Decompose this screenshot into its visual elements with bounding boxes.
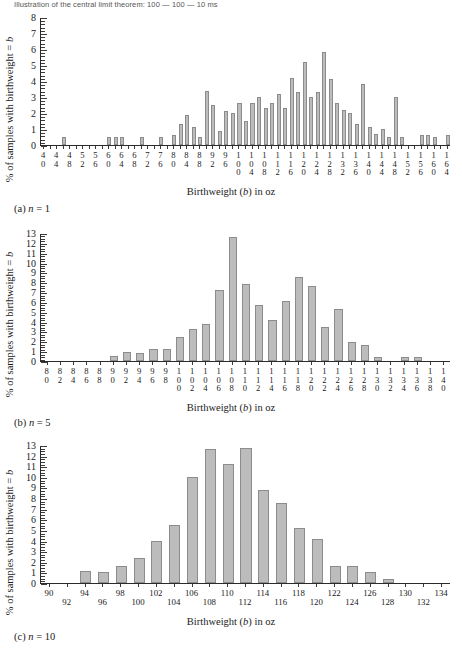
axes-c [40,446,450,584]
x-tick-mark [343,146,344,149]
y-tick-mark-minor [41,236,45,237]
y-tick-mark-minor [41,502,45,503]
x-tick-label: 92 [124,367,128,384]
x-tick-mark [278,146,279,149]
x-tick-mark [238,146,239,149]
x-tick-mark [440,146,441,149]
x-tick-mark [232,362,233,365]
y-tick-mark-major [41,234,47,235]
y-tick-mark-minor [41,340,45,341]
y-tick-mark-minor [41,337,45,338]
x-tick-mark [349,146,350,149]
y-tick-mark-minor [41,286,45,287]
histogram-bar [134,558,145,583]
histogram-bar [426,135,430,145]
histogram-bar [62,137,66,145]
x-tick-mark [100,362,101,365]
x-tick-label: 104 [249,151,253,177]
y-tick-mark-minor [41,300,45,301]
x-tick-digit: 2 [406,168,410,177]
x-tick-digit: 0 [309,384,313,393]
x-tick-label: 100 [131,598,144,607]
y-tick-mark-minor [41,259,45,260]
y-tick-mark-minor [41,355,45,356]
y-tick-label: 4 [31,77,36,87]
x-tick-mark [404,362,405,365]
y-tick-mark-major [41,130,47,131]
y-tick-mark-minor [41,470,45,471]
y-tick-mark-minor [41,494,45,495]
x-tick-label: 84 [71,367,75,384]
chart-panel-b: % of samples with birthweight = b 012345… [0,218,462,430]
y-tick-mark-minor [41,547,45,548]
y-tick-mark-minor [41,483,45,484]
y-axis-title-italic-b: b [5,251,16,256]
histogram-bar [335,103,339,145]
x-tick-label: 110 [221,589,234,598]
chart-panel-a: % of samples with birthweight = b 012345… [0,0,462,218]
y-tick-mark-minor [41,69,45,70]
y-tick-mark-minor [41,101,45,102]
bar-series-b [41,234,450,361]
x-axis-title-c: Birthweight (b) in oz [0,616,462,627]
x-tick-mark [206,146,207,149]
x-tick-label: 110 [243,367,247,393]
x-tick-mark [138,584,139,587]
x-tick-digit: 8 [67,160,71,169]
y-tick-mark-major [41,446,47,447]
histogram-bar [387,137,391,145]
histogram-bar [140,137,144,145]
y-tick-label: 7 [31,505,36,515]
x-tick-mark [298,584,299,587]
x-tick-mark [160,146,161,149]
y-tick-label: 1 [31,347,36,357]
x-tick-mark [252,146,253,149]
x-tick-label: 126 [349,367,353,393]
histogram-bar [257,97,261,145]
y-tick-mark-minor [41,560,45,561]
y-tick-mark-minor [41,72,45,73]
y-tick-label: 5 [31,308,36,318]
x-tick-mark [323,146,324,149]
x-tick-digit: 6 [84,376,88,385]
y-tick-mark-minor [41,345,45,346]
y-tick-mark-minor [41,328,45,329]
y-tick-mark-minor [41,335,45,336]
x-tick-digit: 2 [210,160,214,169]
y-tick-label: 6 [31,298,36,308]
x-tick-mark [417,362,418,365]
x-tick-label: 112 [239,598,252,607]
y-tick-mark-minor [41,523,45,524]
y-tick-label: 4 [31,537,36,547]
x-tick-digit: 2 [80,160,84,169]
y-tick-mark-minor [41,288,45,289]
x-tick-digit: 4 [314,168,318,177]
x-tick-label: 112 [275,151,279,177]
x-tick-label: 96 [98,598,107,607]
x-tick-label: 124 [345,598,358,607]
x-tick-digit: 2 [340,168,344,177]
x-tick-label: 52 [80,151,84,168]
y-tick-mark-minor [41,53,45,54]
x-tick-label: 152 [406,151,410,177]
y-tick-mark-minor [41,473,45,474]
x-tick-digit: 4 [184,160,188,169]
histogram-bar [365,572,376,583]
histogram-bar [381,129,385,145]
x-tick-digit: 2 [190,384,194,393]
axes-a [40,18,450,146]
x-tick-label: 120 [301,151,305,177]
plot-area-b: 012345678910111213 808284868890929496981… [18,218,454,430]
x-tick-mark [401,146,402,149]
y-tick-label: 5 [31,61,36,71]
y-tick-mark-minor [41,581,45,582]
x-tick-label: 116 [283,367,287,393]
y-axis-title-text-c: % of samples with birthweight = [5,475,16,615]
y-tick-mark-major [41,488,47,489]
y-tick-mark-minor [41,276,45,277]
x-tick-mark [205,362,206,365]
x-tick-mark [113,362,114,365]
y-tick-mark-minor [41,136,45,137]
x-tick-mark [421,146,422,149]
y-tick-mark-major [41,457,47,458]
